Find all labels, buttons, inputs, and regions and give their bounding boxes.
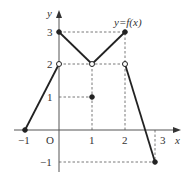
y-tick-neg1: −1 <box>40 156 52 168</box>
y-tick-1: 1 <box>47 91 53 103</box>
function-label: y=f(x) <box>113 16 142 29</box>
x-axis-arrow-icon <box>173 127 181 133</box>
x-tick-1: 1 <box>89 134 95 146</box>
open-point <box>123 62 128 67</box>
open-point <box>90 62 95 67</box>
x-axis-label: x <box>174 134 180 146</box>
x-tick-3: 3 <box>160 134 166 146</box>
y-tick-3: 3 <box>47 26 53 38</box>
closed-point <box>23 128 28 133</box>
closed-point <box>123 30 128 35</box>
closed-point <box>153 160 158 165</box>
y-axis-label: y <box>46 7 52 19</box>
segment-2 <box>59 32 92 64</box>
x-tick-neg1: −1 <box>18 134 30 146</box>
y-tick-2: 2 <box>47 58 53 70</box>
origin-label: O <box>46 134 54 146</box>
open-point <box>57 62 62 67</box>
segment-3 <box>92 32 125 64</box>
x-tick-2: 2 <box>122 134 128 146</box>
y-axis-arrow-icon <box>56 10 62 18</box>
dashed-guides <box>59 32 155 162</box>
segment-1 <box>25 64 59 130</box>
closed-point <box>90 95 95 100</box>
function-graph: y x O y=f(x) −1 1 2 3 3 2 1 −1 <box>0 0 192 179</box>
segment-4 <box>125 64 155 162</box>
closed-point <box>57 30 62 35</box>
